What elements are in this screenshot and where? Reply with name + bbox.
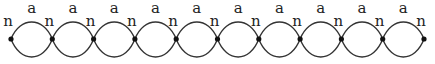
arc-label: a	[192, 1, 201, 16]
arc-bottom	[135, 39, 176, 57]
node	[380, 36, 385, 41]
node-label: n	[3, 14, 13, 29]
node-label: n	[44, 14, 54, 29]
node-label: n	[334, 14, 344, 29]
arc-bottom	[341, 39, 382, 57]
arc-label: a	[399, 1, 408, 16]
arc-label: a	[316, 1, 325, 16]
chain-diagram: aaaaaaaaaannnnnnnnnnn	[0, 0, 435, 64]
node-label: n	[86, 14, 96, 29]
arc-label: a	[234, 1, 243, 16]
arc-label: a	[358, 1, 367, 16]
diagram-svg	[0, 0, 435, 64]
node-label: n	[251, 14, 261, 29]
node-label: n	[168, 14, 178, 29]
arc-label: a	[68, 1, 77, 16]
arc-bottom	[11, 39, 52, 57]
node	[50, 36, 55, 41]
arc-bottom	[259, 39, 300, 57]
arc-label: a	[110, 1, 119, 16]
node	[91, 36, 96, 41]
node	[132, 36, 137, 41]
arc-bottom	[300, 39, 341, 57]
arc-bottom	[218, 39, 259, 57]
node	[421, 36, 426, 41]
node-label: n	[292, 14, 302, 29]
node-label: n	[127, 14, 137, 29]
arc-bottom	[94, 39, 135, 57]
arc-bottom	[176, 39, 217, 57]
node	[256, 36, 261, 41]
arc-bottom	[52, 39, 93, 57]
node	[174, 36, 179, 41]
node-label: n	[375, 14, 385, 29]
arc-label: a	[151, 1, 160, 16]
arc-label: a	[275, 1, 284, 16]
node-label: n	[416, 14, 426, 29]
node	[215, 36, 220, 41]
node-label: n	[210, 14, 220, 29]
node	[298, 36, 303, 41]
arc-label: a	[27, 1, 36, 16]
node	[8, 36, 13, 41]
node	[339, 36, 344, 41]
arc-bottom	[383, 39, 424, 57]
